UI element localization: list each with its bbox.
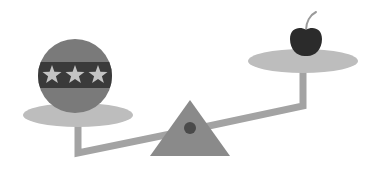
cherry-icon <box>290 12 322 56</box>
star-ball-icon <box>30 39 120 113</box>
balance-scale-illustration: balance scale / seesaw comparing a star-… <box>0 0 381 171</box>
pivot-dot <box>184 122 196 134</box>
